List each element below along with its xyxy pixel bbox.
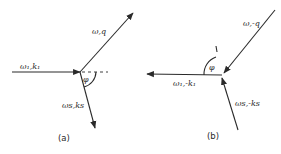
panel-b: φ ω₁,-k₁ ω,-q ωs,-ks (b) bbox=[147, 10, 275, 141]
scattered-label-b: ωs,-ks bbox=[235, 99, 260, 108]
incident-label-b: ω₁,-k₁ bbox=[173, 79, 196, 88]
scattering-diagram: φ ω₁,k₁ ω,q ωs,ks (a) φ ω₁,-k₁ ω,-q ωs,-… bbox=[0, 0, 281, 154]
scattered-label-a: ωs,ks bbox=[62, 101, 84, 110]
angle-label-b: φ bbox=[209, 63, 215, 72]
incident-label-a: ω₁,k₁ bbox=[20, 62, 40, 71]
caption-a: (a) bbox=[58, 133, 70, 143]
q-label-b: ω,-q bbox=[243, 19, 260, 28]
tick-mark-b bbox=[216, 46, 217, 52]
q-vector-a bbox=[80, 13, 133, 72]
angle-label-a: φ bbox=[83, 75, 89, 84]
q-label-a: ω,q bbox=[92, 27, 106, 36]
panel-a: φ ω₁,k₁ ω,q ωs,ks (a) bbox=[12, 13, 133, 143]
caption-b: (b) bbox=[207, 131, 219, 141]
incident-vector-b bbox=[147, 74, 222, 75]
